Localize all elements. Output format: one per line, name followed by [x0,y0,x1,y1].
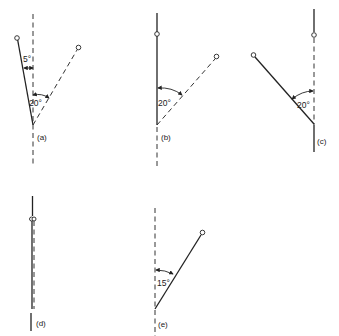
panel-e: 15° (e) [155,208,205,336]
angle-label-5: 5° [23,54,31,64]
pendulum-rod [155,235,201,309]
dashed-rod-position [33,50,77,125]
pendulum-rod [18,39,34,125]
panel-b: 20° (b) [155,13,219,166]
panel-caption-d: (d) [36,319,46,328]
panel-caption-c: (c) [317,137,327,146]
panel-caption-b: (b) [161,133,171,142]
panel-c: 20° (c) [251,9,326,152]
bob-circle-dashed [76,45,81,50]
bob-circle-dashed [312,33,317,38]
pendulum-diagram: 5° 20° (a) 20° (b) 20° (c) (d) [0,0,339,336]
angle-arc-20deg [292,91,313,99]
bob-circle [15,36,20,41]
bob-circle [155,32,160,37]
panel-caption-a: (a) [37,133,47,142]
dashed-rod-position [157,59,215,125]
angle-label-20: 20° [297,100,310,110]
angle-arc-15deg [156,270,173,274]
panel-a: 5° 20° (a) [15,14,81,166]
bob-circle-dashed [32,217,36,221]
bob-circle-dashed [214,54,219,59]
angle-label-20: 20° [158,98,171,108]
panel-caption-e: (e) [158,320,168,329]
panel-d: (d) [30,196,47,331]
bob-circle [251,53,256,58]
angle-label-20: 20° [29,98,42,108]
angle-label-15: 15° [157,278,170,288]
pendulum-rod [255,57,314,124]
angle-arc-20deg [158,88,182,95]
bob-circle [200,230,205,235]
